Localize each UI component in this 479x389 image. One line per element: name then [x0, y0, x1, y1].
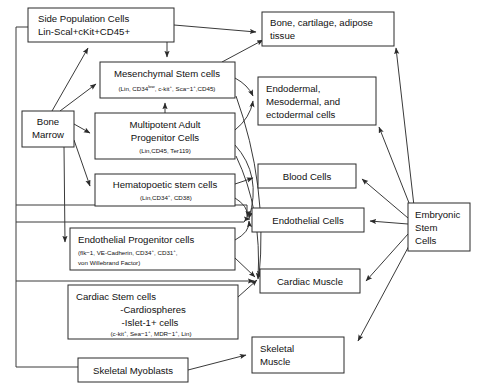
embryonic-stem-cells-line-1: Embryonic: [415, 209, 461, 220]
side-population-cells-line-1: Side Population Cells: [38, 13, 129, 24]
edge-epc-to-cardiac: [235, 258, 255, 277]
mesenchymal-stem-cells-markers: (Lin, CD34low, c-kit+, Sca−1+,CD45): [119, 84, 216, 92]
edge-hsc-to-blood: [235, 178, 253, 184]
edge-mapc-to-germlayers: [235, 101, 253, 130]
cardiac-stem-cells-line-2: -Cardiospheres: [120, 304, 186, 315]
edge-bus-branch-upper: [16, 205, 247, 219]
edge-epc-to-endothelial: [235, 221, 249, 240]
edge-esc-to-endothelial: [370, 221, 408, 224]
bone-cartilage-line-2: tissue: [270, 30, 295, 41]
edge-esc-to-skeletal-muscle: [358, 244, 410, 341]
node-multipotent-adult-progenitor-cells[interactable]: Multipotent Adult Progenitor Cells (Lin,…: [95, 113, 235, 159]
node-hematopoetic-stem-cells[interactable]: Hematopoetic stem cells (Lin,CD34+, CD38…: [95, 174, 235, 206]
epc-markers-line-2: von Willebrand Factor): [78, 259, 140, 266]
node-skeletal-myoblasts[interactable]: Skeletal Myoblasts: [78, 358, 188, 382]
epc-title: Endothelial Progenitor cells: [78, 234, 194, 245]
node-endothelial-progenitor-cells[interactable]: Endothelial Progenitor cells (flk−1, VE-…: [70, 228, 235, 270]
edge-cardiac-stem-to-cardiac-muscle: [238, 280, 257, 297]
bone-marrow-line-1: Bone: [37, 116, 59, 127]
node-bone-marrow[interactable]: Bone Marrow: [22, 111, 74, 147]
germ-layers-line-1: Endodermal,: [266, 83, 320, 94]
edge-bonemarrow-to-mapc: [74, 124, 90, 133]
edge-mesenchymal-to-bone-cartilage: [222, 40, 263, 62]
edge-mesenchymal-arc-to-cardiac: [236, 96, 261, 277]
edge-mesenchymal-arc-to-germlayers: [235, 78, 253, 96]
edge-sidepop-to-bone-cartilage: [174, 25, 256, 32]
cardiac-stem-cells-line-3: -Islet-1+ cells: [122, 317, 179, 328]
node-endodermal-mesodermal-ectodermal-cells[interactable]: Endodermal, Mesodermal, and ectodermal c…: [258, 77, 376, 125]
edge-esc-to-bone-cartilage: [396, 48, 414, 206]
edge-bonemarrow-to-hsc: [74, 140, 90, 186]
skeletal-myoblasts-label: Skeletal Myoblasts: [93, 365, 173, 376]
edge-esc-to-blood: [362, 179, 408, 218]
embryonic-stem-cells-line-2: Stem: [415, 222, 437, 233]
cardiac-stem-cells-markers: (c-kit+, Sea−1+, MDR−1+, Lin): [110, 329, 191, 337]
mesenchymal-stem-cells-title: Mesenchymal Stem cells: [114, 68, 220, 79]
hsc-markers: (Lin,CD34+, CD38): [140, 193, 192, 201]
edge-bonemarrow-to-sidepop: [52, 48, 88, 111]
germ-layers-line-2: Mesodermal, and: [266, 96, 340, 107]
germ-layers-line-3: ectodermal cells: [266, 109, 336, 120]
mapc-line-2: Progenitor Cells: [131, 132, 199, 143]
edge-mapc-arc-to-endothelial: [235, 145, 253, 218]
blood-cells-label: Blood Cells: [283, 171, 332, 182]
edge-bonemarrow-to-epc: [64, 147, 65, 242]
node-endothelial-cells[interactable]: Endothelial Cells: [252, 208, 364, 232]
epc-markers-line-1: (flk−1, VE-Cadherin, CD34+, CD31+,: [78, 248, 178, 256]
endothelial-cells-label: Endothelial Cells: [272, 215, 344, 226]
bone-marrow-line-2: Marrow: [32, 129, 64, 140]
hsc-title: Hematopoetic stem cells: [113, 179, 218, 190]
embryonic-stem-cells-line-3: Cells: [415, 235, 437, 246]
stem-cell-flow-diagram: Side Population Cells Lin-Scal+cKit+CD45…: [0, 0, 479, 389]
side-population-cells-line-2: Lin-Scal+cKit+CD45+: [38, 26, 130, 37]
node-blood-cells[interactable]: Blood Cells: [258, 164, 356, 188]
skeletal-muscle-line-1: Skeletal: [260, 343, 294, 354]
edge-hsc-arc-to-endothelial: [235, 198, 248, 217]
bone-cartilage-line-1: Bone, cartilage, adipose: [270, 17, 373, 28]
node-cardiac-stem-cells[interactable]: Cardiac Stem cells -Cardiospheres -Islet…: [68, 285, 238, 339]
node-bone-cartilage-adipose-tissue[interactable]: Bone, cartilage, adipose tissue: [262, 12, 394, 46]
mapc-markers: (Lin,CD45, Ter119): [139, 147, 191, 154]
edge-bus-branch-lower: [16, 220, 246, 222]
node-skeletal-muscle[interactable]: Skeletal Muscle: [252, 337, 344, 373]
skeletal-muscle-line-2: Muscle: [260, 356, 290, 367]
mapc-line-1: Multipotent Adult: [130, 119, 201, 130]
node-mesenchymal-stem-cells[interactable]: Mesenchymal Stem cells (Lin, CD34low, c-…: [100, 62, 235, 98]
edge-myoblasts-to-skeletal-muscle: [188, 355, 246, 370]
cardiac-muscle-label: Cardiac Muscle: [277, 276, 343, 287]
cardiac-stem-cells-line-1: Cardiac Stem cells: [76, 291, 156, 302]
node-cardiac-muscle[interactable]: Cardiac Muscle: [260, 269, 360, 293]
node-embryonic-stem-cells[interactable]: Embryonic Stem Cells: [408, 203, 470, 251]
edge-esc-to-cardiac-muscle: [366, 234, 408, 281]
node-side-population-cells[interactable]: Side Population Cells Lin-Scal+cKit+CD45…: [28, 8, 174, 42]
